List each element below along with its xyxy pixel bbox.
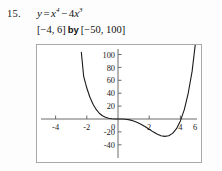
y-tick-label: 20 [107, 102, 115, 111]
window-y-interval: [−50, 100] [81, 24, 125, 35]
x-tick-label: 6 [193, 123, 197, 132]
function-plot: -4 -2 0 2 4 6 100 80 60 40 20 -20 -40 [37, 45, 201, 162]
equation-term1-exponent: 4 [56, 6, 60, 14]
x-tick-label: -4 [52, 123, 60, 132]
y-tick-label: 40 [107, 89, 115, 98]
function-curve [81, 45, 197, 136]
y-tick-label: -40 [104, 141, 115, 150]
graph-frame: -4 -2 0 2 4 6 100 80 60 40 20 -20 -40 [36, 44, 202, 163]
y-tick-label: -20 [104, 128, 115, 137]
equation-equals: = [42, 7, 51, 19]
equation-text: y=x4−4x3 [37, 7, 83, 19]
y-tick-label: 80 [107, 64, 115, 73]
equation-minus: − [60, 7, 69, 19]
x-tick-label: -2 [83, 123, 90, 132]
y-tick-label: 100 [102, 51, 115, 60]
y-axis-ticks [118, 55, 122, 145]
window-x-interval: [−4, 6] [37, 24, 66, 35]
equation-term2-exponent: 3 [79, 6, 83, 14]
window-by-label: by [66, 24, 81, 35]
exercise-figure-page: 15. y=x4−4x3 [−4, 6]by[−50, 100] [0, 0, 222, 171]
y-tick-label: 60 [107, 76, 115, 85]
viewing-window-text: [−4, 6]by[−50, 100] [37, 24, 125, 35]
problem-number: 15. [7, 8, 21, 19]
